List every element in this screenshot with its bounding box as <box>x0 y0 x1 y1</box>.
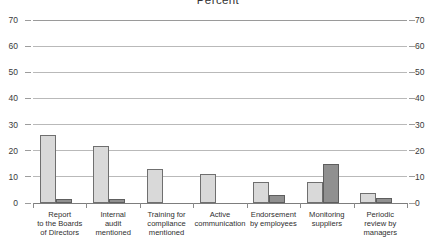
y-axis-label-left-60: 60 <box>0 42 18 51</box>
y-tick-left-60 <box>25 46 31 47</box>
y-tick-left-50 <box>25 72 31 73</box>
y-tick-left-70 <box>25 20 31 21</box>
y-axis-label-right-60: 60 <box>415 42 435 51</box>
bar-light <box>360 193 376 203</box>
y-axis-label-right-40: 40 <box>415 94 435 103</box>
percent-bar-chart: Percent 010203040506070 010203040506070 … <box>0 0 436 252</box>
y-axis-label-right-30: 30 <box>415 121 435 130</box>
bar-light <box>307 182 323 203</box>
bar-dark <box>323 164 339 203</box>
category-label-line: mentioned <box>134 228 199 237</box>
category-label-line: Periodic <box>348 210 413 219</box>
bar-group <box>300 20 353 203</box>
bar-light <box>93 146 109 204</box>
bar-group <box>86 20 139 203</box>
y-axis-label-right-50: 50 <box>415 68 435 77</box>
y-axis-label-left-70: 70 <box>0 16 18 25</box>
y-axis-label-right-70: 70 <box>415 16 435 25</box>
bar-group <box>193 20 246 203</box>
y-tick-left-40 <box>25 98 31 99</box>
category-tick <box>407 203 408 208</box>
category-label-line: review by <box>348 219 413 228</box>
category-tick <box>33 203 34 208</box>
plot-area <box>33 20 407 203</box>
bar-light <box>147 169 163 203</box>
y-axis-label-left-30: 30 <box>0 121 18 130</box>
bar-group <box>140 20 193 203</box>
category-tick <box>354 203 355 208</box>
y-axis-label-left-0: 0 <box>0 199 18 208</box>
category-tick <box>247 203 248 208</box>
y-axis-label-right-0: 0 <box>415 199 435 208</box>
bar-dark <box>269 195 285 203</box>
y-tick-left-0 <box>25 203 31 204</box>
bar-light <box>200 174 216 203</box>
category-tick <box>300 203 301 208</box>
y-axis-label-left-50: 50 <box>0 68 18 77</box>
category-label-line: managers <box>348 228 413 237</box>
y-axis-label-left-10: 10 <box>0 173 18 182</box>
y-axis-label-left-20: 20 <box>0 147 18 156</box>
y-tick-left-10 <box>25 176 31 177</box>
y-tick-left-30 <box>25 124 31 125</box>
chart-title: Percent <box>0 0 436 6</box>
y-axis-label-right-20: 20 <box>415 147 435 156</box>
bar-light <box>40 135 56 203</box>
category-tick <box>193 203 194 208</box>
y-axis-label-right-10: 10 <box>415 173 435 182</box>
category-label: Periodicreview bymanagers <box>348 210 413 238</box>
bars-layer <box>33 20 407 203</box>
category-tick <box>86 203 87 208</box>
y-tick-left-20 <box>25 150 31 151</box>
category-tick <box>140 203 141 208</box>
y-axis-label-left-40: 40 <box>0 94 18 103</box>
bar-group <box>354 20 407 203</box>
bar-group <box>247 20 300 203</box>
bar-group <box>33 20 86 203</box>
category-axis-line <box>33 203 407 204</box>
bar-light <box>253 182 269 203</box>
